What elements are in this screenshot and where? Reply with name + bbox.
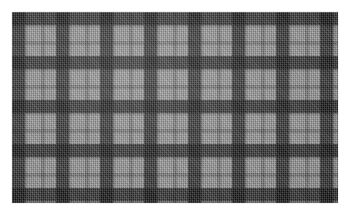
plaid-fabric-swatch xyxy=(12,12,338,203)
image-canvas xyxy=(0,0,347,215)
twill-texture-layer xyxy=(12,12,338,203)
